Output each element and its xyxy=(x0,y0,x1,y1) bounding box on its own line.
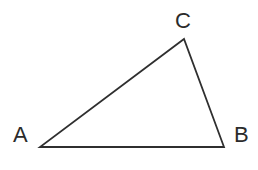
triangle-diagram: A B C xyxy=(0,0,258,170)
vertex-label-a: A xyxy=(13,124,28,146)
triangle-canvas xyxy=(0,0,258,170)
diagram-background xyxy=(0,0,258,170)
vertex-label-b: B xyxy=(234,124,249,146)
vertex-label-c: C xyxy=(175,10,191,32)
